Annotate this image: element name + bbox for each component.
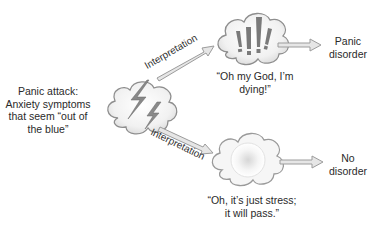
outcome-line: Panic <box>322 35 374 48</box>
calm-cloud-icon <box>212 133 283 185</box>
outcome-panic-disorder: Panic disorder <box>322 35 374 60</box>
outcome-line: No <box>322 152 374 165</box>
storm-cloud-lightning-icon <box>108 80 177 134</box>
trigger-label: Panic attack: Anxiety symptoms that seem… <box>2 85 94 135</box>
trigger-line: Panic attack: <box>2 85 94 98</box>
thought-line: it will pass.” <box>192 207 312 220</box>
outcome-arrow-none <box>280 156 323 168</box>
thought-calm: “Oh, it’s just stress; it will pass.” <box>192 194 312 219</box>
trigger-line: that seem “out of <box>2 110 94 123</box>
thought-line: dying!” <box>210 83 300 96</box>
trigger-line: Anxiety symptoms <box>2 98 94 111</box>
exclamation-cloud-icon <box>218 13 289 64</box>
thought-line: “Oh, it’s just stress; <box>192 194 312 207</box>
outcome-no-disorder: No disorder <box>322 152 374 177</box>
thought-line: “Oh my God, I’m <box>210 70 300 83</box>
outcome-line: disorder <box>322 48 374 61</box>
outcome-line: disorder <box>322 165 374 178</box>
trigger-line: the blue” <box>2 123 94 136</box>
thought-panic: “Oh my God, I’m dying!” <box>210 70 300 95</box>
